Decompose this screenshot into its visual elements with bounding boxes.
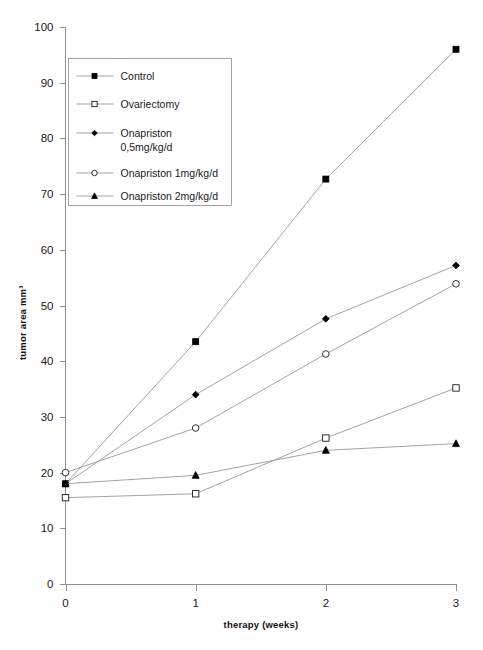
data-point-marker <box>192 491 198 497</box>
y-tick-label: 20 <box>41 467 54 479</box>
series-line <box>66 388 457 498</box>
data-point-marker <box>92 101 97 106</box>
data-point-marker <box>192 391 199 398</box>
data-point-marker <box>92 170 97 175</box>
y-axis-title: tumor area mm³ <box>17 285 28 360</box>
x-tick-label: 1 <box>192 597 198 609</box>
x-tick-label: 3 <box>453 597 459 609</box>
legend-label-line2: 0,5mg/kg/d <box>121 141 173 153</box>
legend-label: Ovariectomy <box>121 98 181 110</box>
legend-label: Onapriston <box>121 127 173 139</box>
series-line <box>66 265 457 483</box>
x-tick-label: 0 <box>62 597 68 609</box>
x-axis-ticks: 0123 <box>62 584 459 609</box>
data-point-marker <box>192 425 199 432</box>
y-tick-label: 70 <box>41 188 54 200</box>
chart-container: 0102030405060708090100 0123 tumor area m… <box>0 0 483 650</box>
y-tick-label: 50 <box>41 300 54 312</box>
data-point-marker <box>193 339 199 345</box>
y-axis-ticks: 0102030405060708090100 <box>34 21 65 590</box>
data-point-marker <box>453 280 460 287</box>
data-point-marker <box>62 494 68 500</box>
series-ovariectomy <box>62 385 459 501</box>
y-tick-label: 100 <box>34 21 53 33</box>
y-tick-label: 0 <box>47 578 53 590</box>
y-tick-label: 90 <box>41 77 54 89</box>
series-onapriston-2mg-kg-d <box>62 440 459 487</box>
line-chart: 0102030405060708090100 0123 tumor area m… <box>0 0 483 650</box>
data-point-marker <box>453 385 459 391</box>
legend-label: Onapriston 2mg/kg/d <box>121 190 219 202</box>
data-point-marker <box>323 176 329 182</box>
legend-label: Control <box>121 70 155 82</box>
legend-label: Onapriston 1mg/kg/d <box>121 167 219 179</box>
data-point-marker <box>322 315 329 322</box>
x-tick-label: 2 <box>323 597 329 609</box>
y-tick-label: 10 <box>41 522 54 534</box>
data-point-marker <box>92 74 97 79</box>
data-point-marker <box>453 262 460 269</box>
data-point-marker <box>62 469 69 476</box>
chart-legend: ControlOvariectomyOnapriston0,5mg/kg/dOn… <box>69 59 232 206</box>
data-point-marker <box>323 435 329 441</box>
x-axis-title: therapy (weeks) <box>224 619 299 630</box>
data-point-marker <box>453 46 459 52</box>
data-point-marker <box>323 351 330 358</box>
y-tick-label: 40 <box>41 355 54 367</box>
y-tick-label: 30 <box>41 411 54 423</box>
y-tick-label: 60 <box>41 244 54 256</box>
y-tick-label: 80 <box>41 132 54 144</box>
data-point-marker <box>453 440 460 447</box>
series-line <box>66 444 457 484</box>
series-line <box>66 284 457 473</box>
